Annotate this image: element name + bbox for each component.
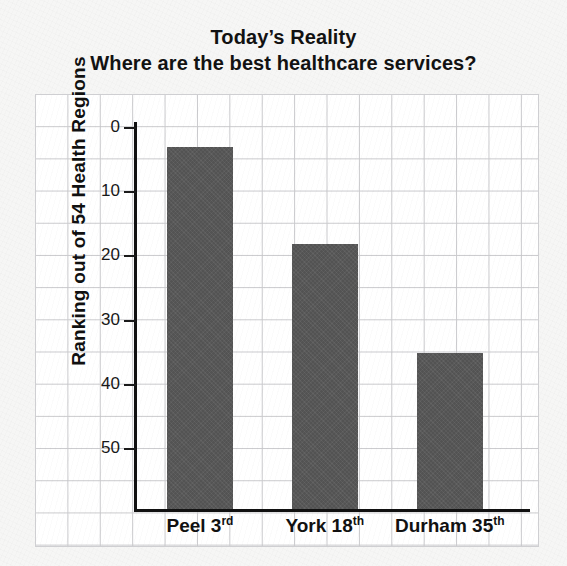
bar (292, 244, 358, 509)
y-tick-mark (124, 384, 136, 386)
x-axis-category-label: York 18th (286, 515, 365, 537)
y-tick-mark (124, 127, 136, 129)
x-axis-category-label: Durham 35th (395, 515, 505, 537)
bar (167, 147, 233, 509)
y-tick-mark (124, 191, 136, 193)
y-axis-title: Ranking out of 54 Health Regions (68, 46, 90, 376)
x-label-ordinal-suffix: th (353, 514, 364, 528)
x-label-region-name: Peel 3 (167, 515, 222, 536)
x-label-ordinal-suffix: rd (221, 514, 233, 528)
bar (417, 353, 483, 509)
x-axis-category-label: Peel 3rd (167, 515, 234, 537)
y-tick-mark (124, 255, 136, 257)
y-tick-mark (124, 448, 136, 450)
y-tick-label: 40 (72, 374, 120, 394)
x-label-region-name: York 18 (286, 515, 353, 536)
x-label-region-name: Durham 35 (395, 515, 493, 536)
y-tick-mark (124, 320, 136, 322)
y-tick-label: 50 (72, 438, 120, 458)
y-axis-line (134, 122, 137, 512)
x-label-ordinal-suffix: th (493, 514, 504, 528)
chart-figure: Today’s Reality Where are the best healt… (0, 0, 567, 566)
x-axis-line (134, 509, 530, 512)
